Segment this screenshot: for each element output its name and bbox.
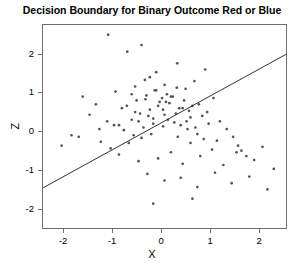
y-tick-mark (38, 54, 42, 55)
x-tick-label: -2 (48, 235, 78, 246)
y-tick-label: -2 (14, 203, 34, 214)
y-tick-label: -1 (14, 164, 34, 175)
y-tick-mark (38, 131, 42, 132)
x-axis-title: X (0, 248, 304, 260)
y-tick-mark (38, 170, 42, 171)
x-tick-label: 2 (244, 235, 274, 246)
x-tick-label: -1 (97, 235, 127, 246)
y-tick-label: 2 (14, 48, 34, 59)
decision-boundary-line (43, 25, 287, 229)
y-tick-mark (38, 209, 42, 210)
x-tick-mark (161, 229, 162, 233)
x-tick-mark (112, 229, 113, 233)
y-tick-mark (38, 92, 42, 93)
x-tick-mark (259, 229, 260, 233)
y-axis-title: Z (9, 106, 21, 146)
x-tick-mark (63, 229, 64, 233)
y-tick-label: 1 (14, 86, 34, 97)
page-title: Decision Boundary for Binary Outcome Red… (0, 4, 304, 17)
scatter-plot-figure: Decision Boundary for Binary Outcome Red… (0, 0, 304, 271)
x-tick-mark (210, 229, 211, 233)
x-tick-label: 0 (146, 235, 176, 246)
plot-panel (42, 24, 287, 229)
x-tick-label: 1 (195, 235, 225, 246)
